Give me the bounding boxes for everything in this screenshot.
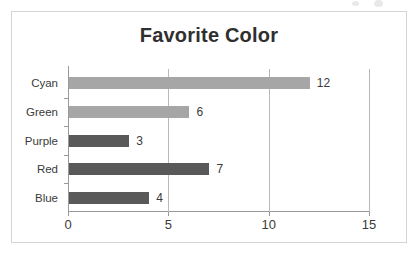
x-axis-labels: 051015 <box>68 12 369 244</box>
x-axis-label-0: 0 <box>64 217 71 232</box>
chart-frame: Favorite Color CyanGreenPurpleRedBlue 12… <box>11 11 407 243</box>
x-axis-tick-15 <box>369 212 370 216</box>
category-label-red: Red <box>37 163 58 175</box>
category-label-purple: Purple <box>25 135 58 147</box>
category-label-blue: Blue <box>35 192 58 204</box>
category-axis-labels: CyanGreenPurpleRedBlue <box>12 69 64 212</box>
category-label-green: Green <box>26 106 58 118</box>
x-axis-tick-0 <box>68 212 69 216</box>
x-axis-label-5: 5 <box>165 217 172 232</box>
x-axis-tick-10 <box>269 212 270 216</box>
scan-artifact-dot-2 <box>374 0 383 7</box>
x-axis-label-10: 10 <box>261 217 275 232</box>
x-axis-label-15: 15 <box>362 217 376 232</box>
x-axis-tick-5 <box>168 212 169 216</box>
category-label-cyan: Cyan <box>31 77 58 89</box>
scan-artifact-dot-1 <box>352 1 359 6</box>
